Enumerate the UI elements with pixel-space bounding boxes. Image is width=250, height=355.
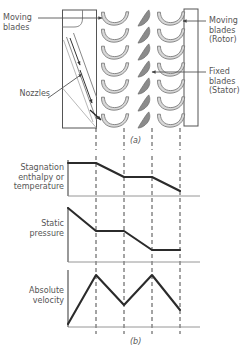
caption-b: (b)	[130, 337, 141, 346]
fixed-blade-column	[138, 10, 150, 128]
label-moving-blades-rotor: Moving blades (Rotor)	[209, 16, 249, 45]
station-dashed-lines-b	[96, 156, 180, 334]
moving-blade-column-1	[101, 12, 128, 127]
moving-blade-column-2	[157, 12, 184, 127]
nozzle-casing	[63, 10, 97, 128]
label-fixed-blades-stator: Fixed blades (Stator)	[209, 67, 249, 96]
caption-a: (a)	[130, 136, 141, 145]
rotor-casing-bar	[184, 9, 198, 126]
axis-label-stagnation-enthalpy: Stagnation enthalpy or temperature	[0, 163, 64, 192]
axis-label-static-pressure: Static pressure	[0, 219, 64, 238]
figure-root: Moving blades Nozzles Moving blades (Rot…	[0, 0, 250, 355]
axis-label-absolute-velocity: Absolute velocity	[0, 286, 64, 305]
label-moving-blades-left: Moving blades	[3, 13, 45, 32]
label-nozzles: Nozzles	[6, 89, 50, 99]
